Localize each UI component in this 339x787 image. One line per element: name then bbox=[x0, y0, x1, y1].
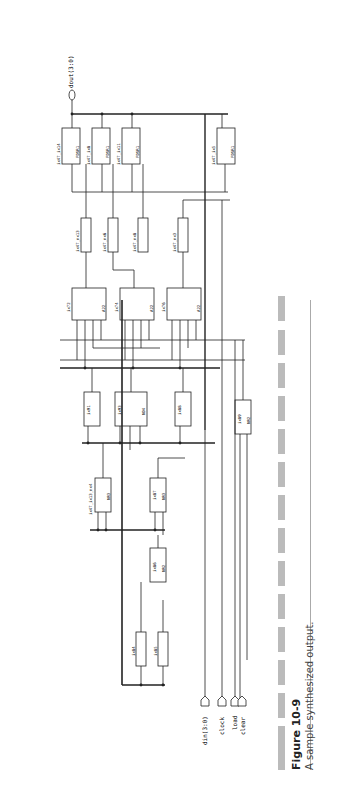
mid-label-3: ix89 bbox=[237, 414, 242, 424]
ff-label-2: ix47_ix11 bbox=[116, 143, 121, 165]
lower-label-1: ix87 bbox=[152, 490, 157, 500]
input-port-clear bbox=[238, 696, 246, 706]
schematic-diagram bbox=[0, 0, 339, 787]
mid-type-1: ND4 bbox=[141, 408, 146, 415]
figure-caption-block: Figure 10-9 A sample synthesized output. bbox=[290, 250, 316, 770]
inv-label-1: ix47_nx6 bbox=[102, 233, 107, 252]
lower-type-2: NR2 bbox=[161, 565, 166, 572]
ff-label-0: ix47_ix14 bbox=[56, 143, 61, 165]
and-type-2: A22 bbox=[196, 305, 201, 312]
label-clear: clear bbox=[239, 717, 246, 735]
input-port-clock bbox=[218, 696, 226, 706]
label-load: load bbox=[231, 716, 238, 730]
and-type-0: A22 bbox=[101, 305, 106, 312]
ff-type-1: FDSR1 bbox=[105, 146, 110, 158]
mid-label-2: ix88 bbox=[177, 405, 182, 415]
figure-caption: A sample synthesized output. bbox=[303, 250, 316, 770]
binv-label-1: ix85 bbox=[153, 646, 158, 656]
inv-label-2: ix47_nx8 bbox=[132, 233, 137, 252]
ff-type-3: FDSR1 bbox=[230, 146, 235, 158]
figure-title: Figure 10-9 bbox=[290, 250, 303, 770]
and-label-0: ix72 bbox=[66, 302, 71, 312]
label-dout: dout(3:0) bbox=[67, 55, 74, 88]
inv-label-0: ix47_nx13 bbox=[75, 230, 80, 252]
ff-type-2: FDSR1 bbox=[135, 146, 140, 158]
ff-label-1: ix47_ix8 bbox=[86, 146, 91, 165]
mid-type-3: NR2 bbox=[246, 417, 251, 424]
inv-label-3: ix47_nx3 bbox=[172, 233, 177, 252]
lower-label-2: ix86 bbox=[152, 562, 157, 572]
lower-type-0: NR3 bbox=[106, 493, 111, 500]
and-label-1: ix74 bbox=[114, 302, 119, 312]
label-clock: clock bbox=[218, 717, 225, 735]
lower-label-0: ix47_ix13_nx4 bbox=[88, 484, 93, 515]
ff-type-0: FDSR1 bbox=[75, 146, 80, 158]
ff-label-3: ix47_ix5 bbox=[211, 146, 216, 165]
mid-label-1: ix93 bbox=[117, 405, 122, 415]
output-port-dout bbox=[69, 90, 75, 100]
input-port-din bbox=[201, 696, 209, 706]
and-label-2: ix76 bbox=[161, 302, 166, 312]
lower-type-1: NR3 bbox=[161, 493, 166, 500]
mid-label-0: ix91 bbox=[86, 405, 91, 415]
label-din: din(3:0) bbox=[201, 716, 208, 745]
binv-label-0: ix84 bbox=[131, 646, 136, 656]
and-type-1: A22 bbox=[149, 305, 154, 312]
